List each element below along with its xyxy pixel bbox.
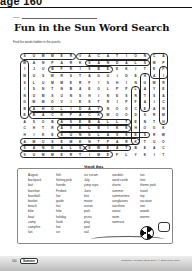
name-line bbox=[22, 18, 97, 19]
page-number: 160 bbox=[12, 259, 17, 263]
grid-cell: Y bbox=[131, 151, 140, 158]
sandcastle-icon bbox=[158, 222, 170, 232]
word-item: sail bbox=[84, 230, 112, 235]
beach-ball-icon bbox=[140, 226, 154, 240]
answer-loop bbox=[57, 125, 131, 132]
word-item: worms bbox=[140, 215, 168, 220]
word-search-grid: SUMMERVACATIONCAWANPARKSANDALSMPIJUBFRIS… bbox=[20, 53, 168, 158]
name-label: Name bbox=[13, 16, 20, 19]
footer: 160 Summer Seasonal Activities • EMC 290… bbox=[0, 256, 192, 271]
answer-loop bbox=[159, 66, 168, 125]
grid-cell: L bbox=[122, 151, 131, 158]
season-badge: Summer bbox=[20, 258, 38, 264]
answer-loop bbox=[140, 73, 149, 112]
name-field: Name bbox=[13, 16, 97, 19]
copyright: Seasonal Activities • EMC 2904 • © Evan-… bbox=[121, 259, 180, 262]
grid-cell: T bbox=[159, 151, 168, 158]
word-item: fan bbox=[28, 230, 56, 235]
answer-loop bbox=[76, 53, 150, 60]
grid-cell: F bbox=[113, 151, 122, 158]
word-column: sandalssand castleshortssummersummertime… bbox=[112, 173, 140, 235]
answer-loop bbox=[48, 66, 113, 73]
page-title: Fun in the Sun Word Search bbox=[14, 22, 169, 33]
word-item: swimsuit bbox=[112, 220, 140, 225]
answer-loop bbox=[29, 112, 103, 119]
word-column: fishfishing polefriendsFrisbeefunguideha… bbox=[56, 173, 84, 235]
grid-cell: K bbox=[140, 151, 149, 158]
answer-loop bbox=[20, 60, 29, 119]
answer-loop bbox=[20, 53, 76, 60]
sand-illustration bbox=[90, 236, 165, 243]
word-item: ice bbox=[56, 230, 84, 235]
answer-loop bbox=[20, 138, 140, 145]
word-column: ice creamJulyjump ropeJunekitemovieocean… bbox=[84, 173, 112, 235]
page-header: age 160 bbox=[0, 0, 192, 8]
grid-cell: I bbox=[150, 151, 159, 158]
instructions: Find the words hidden in the puzzle. bbox=[13, 40, 61, 44]
page-header-text: age 160 bbox=[0, 0, 42, 7]
answer-loop bbox=[20, 151, 113, 158]
answer-loop bbox=[131, 86, 140, 145]
word-column: Augustbackpackbaitbarefootbaseballbasket… bbox=[28, 173, 56, 235]
